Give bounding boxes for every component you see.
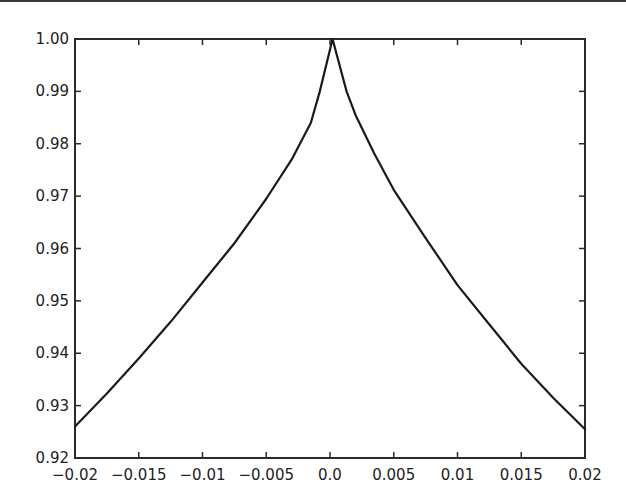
y-tick-label: 0.97 [36,187,69,205]
y-tick-label: 0.95 [36,292,69,310]
y-tick-label: 0.94 [36,344,69,362]
line-chart: 0.920.930.940.950.960.970.980.991.00 −0.… [0,0,626,503]
x-tick-label: 0.0 [318,466,342,484]
x-tick-label: −0.015 [111,466,167,484]
y-axis-ticks: 0.920.930.940.950.960.970.980.991.00 [36,30,585,467]
plot-area-frame [75,39,585,458]
x-tick-label: 0.005 [372,466,415,484]
x-tick-label: −0.005 [238,466,294,484]
x-tick-label: 0.015 [500,466,543,484]
y-tick-label: 1.00 [36,30,69,48]
y-tick-label: 0.96 [36,240,69,258]
y-tick-label: 0.98 [36,135,69,153]
x-tick-label: −0.02 [52,466,98,484]
x-tick-label: 0.01 [441,466,474,484]
y-tick-label: 0.99 [36,82,69,100]
x-tick-label: 0.02 [568,466,601,484]
data-series-line [75,39,585,429]
x-tick-label: −0.01 [180,466,226,484]
y-tick-label: 0.93 [36,397,69,415]
x-axis-ticks: −0.02−0.015−0.01−0.0050.00.0050.010.0150… [52,39,602,484]
y-tick-label: 0.92 [36,449,69,467]
